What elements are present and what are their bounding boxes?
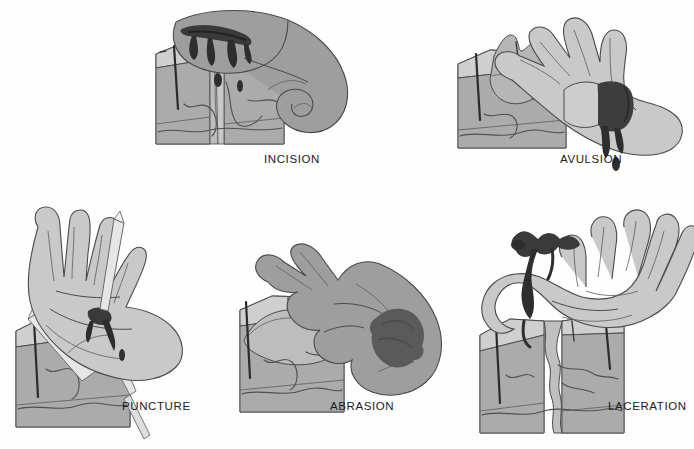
wound-types-figure: INCISION [0,0,694,449]
label-incision: INCISION [264,153,320,165]
panel-puncture [2,205,232,449]
label-laceration: LACERATION [608,400,687,412]
label-avulsion: AVULSION [560,153,622,165]
panel-incision [148,4,358,204]
panel-avulsion [448,4,688,204]
panel-abrasion [228,244,468,449]
label-puncture: PUNCTURE [122,400,191,412]
panel-laceration [466,205,694,449]
laceration-skin-block [480,317,624,433]
label-abrasion: ABRASION [330,400,394,412]
